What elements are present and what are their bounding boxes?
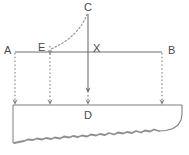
label-x: X — [93, 43, 100, 54]
arc-c-to-e — [51, 14, 87, 49]
diagram-canvas: A B C D E X — [0, 0, 189, 155]
label-d: D — [84, 110, 92, 121]
water-body — [13, 105, 182, 143]
label-c: C — [84, 2, 92, 13]
diagram-svg — [0, 0, 189, 155]
drop-line-a — [12, 53, 17, 105]
drop-line-e — [47, 46, 52, 105]
label-b: B — [168, 45, 175, 56]
drop-line-x — [85, 95, 90, 105]
label-e: E — [38, 42, 45, 53]
water-fill-shape — [13, 105, 182, 143]
label-a: A — [4, 45, 11, 56]
drop-line-b — [159, 53, 164, 105]
